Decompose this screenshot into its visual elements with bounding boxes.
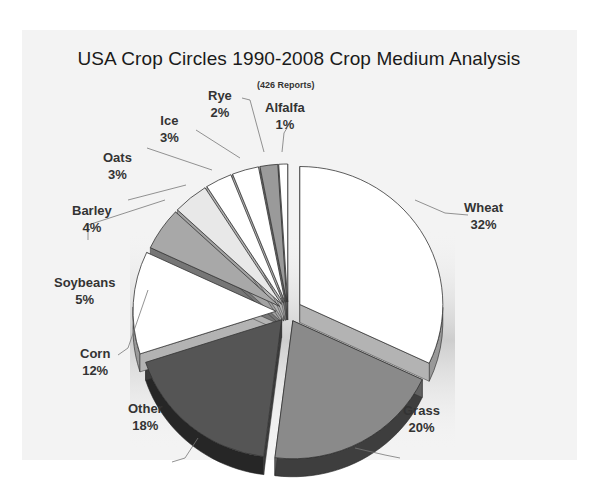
label-oats: Oats 3% xyxy=(103,149,132,183)
leader-line-rye xyxy=(242,98,264,152)
label-wheat: Wheat 32% xyxy=(464,199,503,233)
label-corn: Corn 12% xyxy=(80,345,110,379)
leader-line-wheat xyxy=(415,200,468,215)
label-other: Other 18% xyxy=(128,400,163,434)
pie-chart xyxy=(0,0,598,487)
label-alfalfa: Alfalfa 1% xyxy=(265,99,305,133)
label-soybeans: Soybeans 5% xyxy=(54,274,115,308)
label-ice: Ice 3% xyxy=(160,112,179,146)
label-grass: Grass 20% xyxy=(403,402,440,436)
leader-line-oats xyxy=(147,148,212,170)
leader-line-barley xyxy=(128,185,186,200)
label-rye: Rye 2% xyxy=(208,87,232,121)
leader-line-ice xyxy=(196,130,240,158)
label-barley: Barley 4% xyxy=(72,202,112,236)
